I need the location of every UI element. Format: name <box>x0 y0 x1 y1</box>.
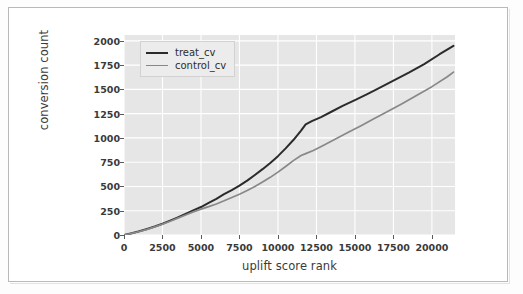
x-tick-label: 7500 <box>226 242 252 253</box>
x-tick-label: 15000 <box>338 242 371 253</box>
chart-legend: treat_cvcontrol_cv <box>140 41 235 77</box>
x-tick-mark <box>278 235 279 239</box>
x-tick-label: 20000 <box>415 242 448 253</box>
y-tick-label: 1500 <box>66 84 120 95</box>
x-tick-label: 12500 <box>300 242 333 253</box>
y-tick-label: 1000 <box>66 132 120 143</box>
x-tick-mark <box>239 235 240 239</box>
x-tick-label: 17500 <box>377 242 410 253</box>
y-tick-label: 750 <box>66 157 120 168</box>
legend-label: treat_cv <box>175 47 215 58</box>
y-tick-label: 2000 <box>66 35 120 46</box>
x-tick-mark <box>316 235 317 239</box>
x-axis-ticks: 02500500075001000012500150001750020000 <box>124 238 455 254</box>
legend-line-swatch <box>146 65 168 66</box>
y-axis-label: conversion count <box>37 0 51 160</box>
legend-item-control_cv: control_cv <box>146 59 226 72</box>
y-tick-label: 1750 <box>66 60 120 71</box>
x-tick-mark <box>355 235 356 239</box>
legend-item-treat_cv: treat_cv <box>146 46 226 59</box>
x-axis-label: uplift score rank <box>124 259 455 273</box>
x-tick-label: 2500 <box>149 242 175 253</box>
x-tick-mark <box>393 235 394 239</box>
y-tick-label: 500 <box>66 181 120 192</box>
x-tick-mark <box>201 235 202 239</box>
y-tick-label: 250 <box>66 205 120 216</box>
x-tick-mark <box>162 235 163 239</box>
x-tick-label: 10000 <box>261 242 294 253</box>
legend-line-swatch <box>146 52 168 54</box>
chart-figure: conversion count 02505007501000125015001… <box>8 7 508 282</box>
x-tick-label: 5000 <box>188 242 214 253</box>
x-tick-label: 0 <box>121 242 128 253</box>
y-tick-label: 0 <box>66 230 120 241</box>
x-tick-mark <box>432 235 433 239</box>
x-tick-mark <box>124 235 125 239</box>
y-tick-label: 1250 <box>66 108 120 119</box>
legend-label: control_cv <box>175 60 226 71</box>
screenshot-root: conversion count 02505007501000125015001… <box>0 0 523 294</box>
y-axis-ticks: 025050075010001250150017502000 <box>64 35 120 235</box>
